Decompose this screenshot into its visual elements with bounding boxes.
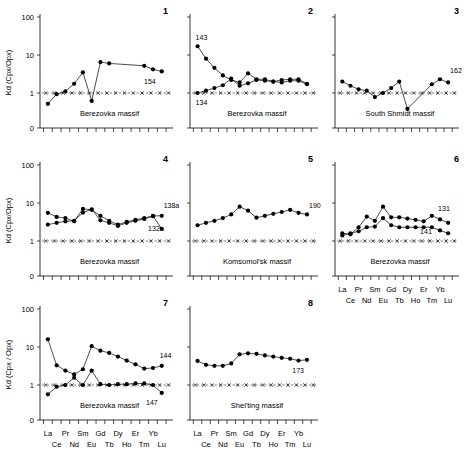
massif-caption: Berezovka massif (370, 257, 430, 266)
series-label-173: 173 (292, 367, 304, 374)
data-point (238, 84, 242, 88)
data-point (98, 349, 102, 353)
data-point (254, 78, 258, 82)
data-point (98, 382, 102, 386)
series-label-132a: 132a (148, 225, 164, 232)
x-tick-label-Tb: Tb (252, 440, 261, 449)
data-point (204, 363, 208, 367)
x-tick-label-Sm: Sm (77, 429, 88, 438)
data-point (107, 383, 111, 387)
x-tick-label-Ho: Ho (411, 296, 421, 305)
data-point (221, 73, 225, 77)
data-point (98, 60, 102, 64)
series-label-162: 162 (450, 67, 462, 74)
data-point (107, 351, 111, 355)
data-point (195, 91, 199, 95)
data-point (271, 212, 275, 216)
y-tick-label: 1 (30, 381, 34, 390)
data-point (46, 223, 50, 227)
y-axis-label: Kd (Cpx / Opx) (4, 339, 13, 389)
data-point (63, 383, 67, 387)
data-point (221, 364, 225, 368)
x-tick-label-Yb: Yb (148, 429, 157, 438)
x-tick-label-La: La (338, 285, 347, 294)
data-point (90, 368, 94, 372)
x-tick-label-Ho: Ho (269, 440, 279, 449)
y-tick-label: 10 (26, 343, 34, 352)
data-point (446, 221, 450, 225)
x-tick-label-Tm: Tm (139, 440, 150, 449)
data-point (288, 77, 292, 81)
x-tick-label-Dy: Dy (113, 429, 122, 438)
y-axis-label: Kd (Cpx/Opx) (4, 49, 13, 95)
data-point (81, 207, 85, 211)
x-tick-label-Gd: Gd (386, 285, 396, 294)
series-label-144: 144 (160, 352, 172, 359)
data-point (365, 214, 369, 218)
data-point (357, 229, 361, 233)
data-point (381, 205, 385, 209)
data-point (430, 82, 434, 86)
x-tick-label-Lu: Lu (444, 296, 452, 305)
chart-panel-2: 2143134Berezovka massif (176, 0, 321, 148)
data-point (438, 217, 442, 221)
data-point (46, 211, 50, 215)
data-point (365, 225, 369, 229)
y-tick-label: 10 (26, 51, 34, 60)
data-point (381, 216, 385, 220)
data-point (98, 218, 102, 222)
data-point (413, 225, 417, 229)
x-tick-label-Gd: Gd (95, 429, 105, 438)
data-point (55, 385, 59, 389)
data-point (107, 221, 111, 225)
data-point (405, 225, 409, 229)
data-point (98, 214, 102, 218)
x-tick-label-Lu: Lu (303, 440, 311, 449)
y-tick-label: 1 (30, 237, 34, 246)
x-tick-label-Dy: Dy (260, 429, 269, 438)
data-point (446, 231, 450, 235)
data-point (142, 381, 146, 385)
data-point (246, 351, 250, 355)
data-point (142, 367, 146, 371)
data-point (288, 208, 292, 212)
data-point (151, 214, 155, 218)
data-point (55, 92, 59, 96)
series-label-131: 131 (438, 205, 450, 212)
x-tick-label-Tm: Tm (426, 296, 437, 305)
data-point (125, 382, 129, 386)
data-point (340, 233, 344, 237)
x-tick-label-La: La (44, 429, 53, 438)
series-label-134: 134 (196, 99, 208, 106)
panel-number: 3 (454, 6, 459, 16)
data-point (389, 86, 393, 90)
x-tick-label-Er: Er (278, 429, 286, 438)
x-tick-label-Lu: Lu (158, 440, 166, 449)
y-tick-label: 0 (30, 416, 34, 425)
data-point (151, 67, 155, 71)
data-point (204, 57, 208, 61)
data-point (438, 228, 442, 232)
data-point (430, 214, 434, 218)
data-point (254, 352, 258, 356)
panel-number: 1 (163, 6, 168, 16)
data-point (413, 218, 417, 222)
x-tick-label-Sm: Sm (369, 285, 380, 294)
data-point (438, 77, 442, 81)
chart-panel-4: 41001010Kd (Cpx/Opx)138a132aBerezovka ma… (0, 148, 176, 296)
data-point (296, 211, 300, 215)
data-point (389, 215, 393, 219)
data-point (357, 87, 361, 91)
massif-caption: Komsomol'sk massif (223, 257, 292, 266)
massif-caption: Berezovka massif (80, 401, 140, 410)
series-label-190: 190 (309, 202, 321, 209)
data-point (116, 354, 120, 358)
massif-caption: Berezovka massif (227, 109, 287, 118)
x-tick-label-Sm: Sm (226, 429, 237, 438)
data-point (280, 78, 284, 82)
x-tick-label-Tb: Tb (105, 440, 114, 449)
data-point (151, 383, 155, 387)
data-point (271, 79, 275, 83)
data-point (296, 358, 300, 362)
